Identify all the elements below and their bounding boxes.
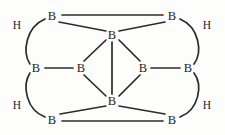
atom-label-h-upper-left: H — [12, 19, 22, 31]
bond-centertop-rightinner — [119, 40, 140, 61]
bridge-lower-right — [180, 73, 199, 117]
atom-label-b-bottom-right: B — [167, 114, 177, 126]
atom-label-b-bottom-left: B — [47, 114, 57, 126]
bond-centerbottom-bottomleft — [60, 106, 106, 114]
atom-label-b-right-outer: B — [183, 62, 193, 74]
bond-topleft-centertop — [59, 22, 106, 31]
atom-label-b-center-bottom: B — [107, 95, 117, 107]
atom-label-b-top-right: B — [167, 10, 177, 22]
bond-centertop-leftinner — [84, 40, 106, 61]
bridge-upper-right — [180, 19, 199, 64]
atom-label-h-upper-right: H — [202, 19, 212, 31]
bond-topright-centertop — [119, 22, 165, 31]
atom-label-b-top-left: B — [47, 10, 57, 22]
atom-label-b-center-top: B — [107, 29, 117, 41]
atom-label-b-right-inner: B — [138, 62, 148, 74]
atom-label-h-lower-left: H — [12, 99, 22, 111]
atom-label-b-left-outer: B — [31, 62, 41, 74]
bridge-lower-left — [26, 73, 45, 117]
bridge-upper-left — [26, 19, 45, 64]
atom-label-b-left-inner: B — [76, 62, 86, 74]
bond-centerbottom-bottomright — [119, 106, 165, 114]
atom-label-h-lower-right: H — [202, 99, 212, 111]
structure-diagram-canvas: BBBBBBBBBBHHHH — [0, 0, 225, 135]
bond-rightinner-centerbottom — [119, 75, 140, 96]
bond-leftinner-centerbottom — [84, 75, 106, 96]
